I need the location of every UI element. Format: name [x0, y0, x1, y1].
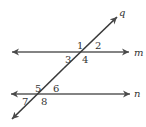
- angle-4-label: 4: [82, 54, 88, 65]
- angle-8-label: 8: [41, 96, 47, 107]
- angle-6-label: 6: [53, 83, 59, 94]
- angle-5-label: 5: [35, 83, 41, 94]
- angle-7-label: 7: [22, 96, 28, 107]
- label-q: q: [119, 7, 125, 18]
- angle-2-label: 2: [95, 40, 101, 51]
- label-m: m: [134, 47, 143, 58]
- parallel-lines-diagram: q m n 1 2 3 4 5 6 7 8: [0, 0, 146, 127]
- angle-3-label: 3: [65, 54, 71, 65]
- label-n: n: [134, 88, 140, 99]
- angle-1-label: 1: [77, 40, 83, 51]
